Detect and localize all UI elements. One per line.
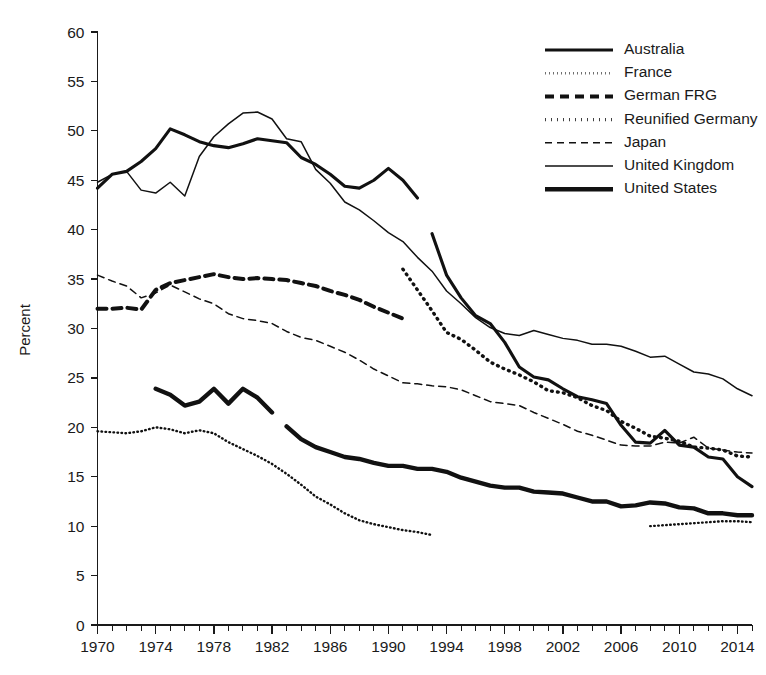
x-tick-label: 1978 bbox=[197, 638, 231, 655]
chart-legend: AustraliaFranceGerman FRGReunified Germa… bbox=[545, 40, 758, 196]
x-tick-label: 2010 bbox=[662, 638, 697, 655]
legend-label-united-states: United States bbox=[624, 179, 717, 196]
y-tick-label: 15 bbox=[67, 468, 84, 485]
x-tick-label: 1990 bbox=[371, 638, 406, 655]
x-tick-label: 2002 bbox=[546, 638, 580, 655]
series-line bbox=[156, 389, 272, 413]
x-tick-label: 1970 bbox=[80, 638, 115, 655]
y-tick-label: 10 bbox=[67, 518, 85, 535]
y-tick-label: 20 bbox=[67, 419, 85, 436]
x-tick-label: 2014 bbox=[720, 638, 755, 655]
series-line bbox=[98, 275, 753, 453]
legend-label-australia: Australia bbox=[624, 40, 685, 57]
legend-label-france: France bbox=[624, 63, 672, 80]
union-density-line-chart: 051015202530354045505560 197019741978198… bbox=[0, 0, 766, 675]
y-tick-label: 55 bbox=[67, 73, 84, 90]
series-line bbox=[287, 426, 752, 515]
y-tick-label: 5 bbox=[76, 567, 85, 584]
y-tick-label: 30 bbox=[67, 320, 85, 337]
chart-container: 051015202530354045505560 197019741978198… bbox=[0, 0, 766, 675]
legend-label-reunified-germany: Reunified Germany bbox=[624, 110, 758, 127]
x-axis-ticks: 1970197419781982198619901994199820022006… bbox=[80, 625, 755, 655]
x-tick-label: 1982 bbox=[255, 638, 289, 655]
x-tick-label: 1986 bbox=[313, 638, 347, 655]
y-tick-label: 35 bbox=[67, 271, 84, 288]
x-tick-label: 1998 bbox=[488, 638, 522, 655]
x-tick-label: 2006 bbox=[604, 638, 638, 655]
y-tick-label: 25 bbox=[67, 369, 84, 386]
series-line bbox=[98, 112, 753, 396]
legend-label-german-frg: German FRG bbox=[624, 86, 717, 103]
series-line bbox=[432, 234, 752, 487]
y-tick-label: 0 bbox=[76, 617, 85, 634]
y-tick-label: 60 bbox=[67, 24, 85, 41]
series-line bbox=[98, 427, 433, 535]
x-tick-label: 1974 bbox=[138, 638, 173, 655]
y-tick-label: 45 bbox=[67, 172, 84, 189]
series-line bbox=[98, 129, 418, 198]
y-axis-title: Percent bbox=[16, 303, 33, 356]
series-line bbox=[403, 269, 752, 457]
y-tick-label: 40 bbox=[67, 221, 85, 238]
legend-label-japan: Japan bbox=[624, 133, 666, 150]
y-tick-label: 50 bbox=[67, 122, 85, 139]
legend-label-united-kingdom: United Kingdom bbox=[624, 156, 734, 173]
series-line bbox=[650, 521, 752, 526]
x-tick-label: 1994 bbox=[429, 638, 464, 655]
data-series bbox=[98, 112, 753, 535]
y-axis-ticks: 051015202530354045505560 bbox=[67, 24, 97, 634]
